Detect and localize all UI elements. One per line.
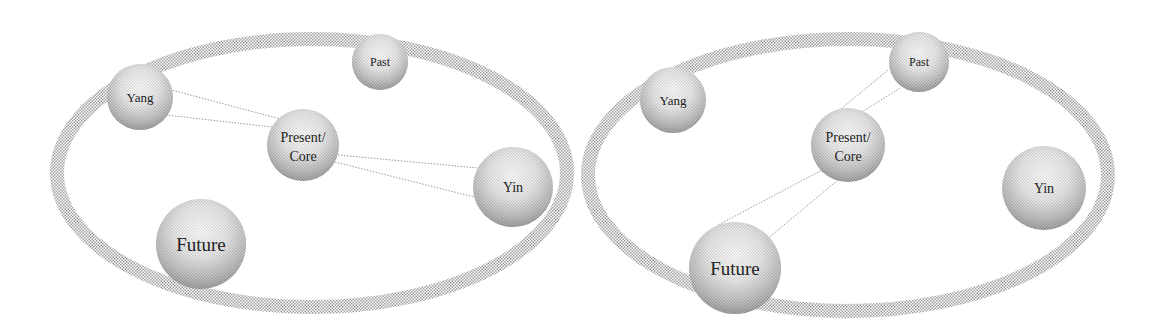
node-label: Future [710,258,760,279]
node-label: Core [289,149,316,164]
connection-line [164,88,284,120]
node-past: Past [889,32,949,92]
node-label: Yang [660,93,687,108]
connection-line [335,162,482,199]
node-label: Past [370,55,391,69]
node-label: Present/ [280,130,325,145]
node-yin: Yin [1002,146,1086,230]
connection-line [862,88,900,112]
left-panel: YangPastPresent/CoreYinFuture [57,34,567,307]
node-label: Yin [503,180,523,195]
node-label: Yang [127,90,154,105]
node-label: Core [834,149,861,164]
node-present: Present/Core [267,109,339,181]
node-future: Future [156,199,246,289]
connection-line [166,115,272,127]
node-future: Future [689,222,781,314]
node-yang: Yang [107,64,173,130]
node-yang: Yang [640,67,706,133]
node-label: Present/ [825,130,870,145]
node-present: Present/Core [811,108,885,182]
node-past: Past [352,34,408,90]
node-label: Yin [1034,181,1054,196]
sphere-texture [811,108,885,182]
yin-yang-time-diagram: YangPastPresent/CoreYinFuture YangPastPr… [0,0,1158,322]
connection-line [718,168,826,225]
node-label: Future [176,234,226,255]
sphere-texture [267,109,339,181]
node-yin: Yin [473,147,553,227]
connection-line [338,155,478,168]
connection-line [760,180,838,245]
node-label: Past [909,55,930,69]
right-panel: YangPastPresent/CoreYinFuture [588,32,1108,314]
